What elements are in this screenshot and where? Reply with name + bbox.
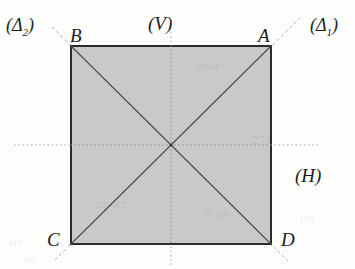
vertex-label-d: D: [281, 230, 295, 249]
scan-artifact-text: 274: [252, 132, 272, 148]
delta-2-label-open: (Δ: [6, 15, 23, 35]
delta-1-label: (Δ1): [310, 16, 338, 38]
horizontal-axis-label: (H): [295, 166, 321, 185]
scan-artifact-text: прост: [96, 196, 128, 212]
vertex-label-c: C: [47, 230, 60, 249]
scan-artifact-text: из: [10, 234, 22, 250]
vertex-label-a: A: [258, 26, 270, 45]
center-point: [169, 143, 172, 146]
vertex-label-b: B: [70, 26, 82, 45]
vertical-axis-label: (V): [148, 14, 172, 33]
delta-1-label-close: ): [332, 15, 338, 35]
scan-artifact-text: В сл: [204, 206, 228, 222]
delta-1-label-open: (Δ: [310, 15, 327, 35]
scan-artifact-text: но: [300, 210, 313, 226]
scan-artifact-text: на: [24, 252, 36, 267]
geometry-figure: A B C D (V) (H) (Δ1) (Δ2) диаг274простВ …: [0, 0, 355, 269]
scan-artifact-text: диаг: [196, 58, 221, 74]
delta-2-label: (Δ2): [6, 16, 34, 38]
delta-2-label-close: ): [28, 15, 34, 35]
